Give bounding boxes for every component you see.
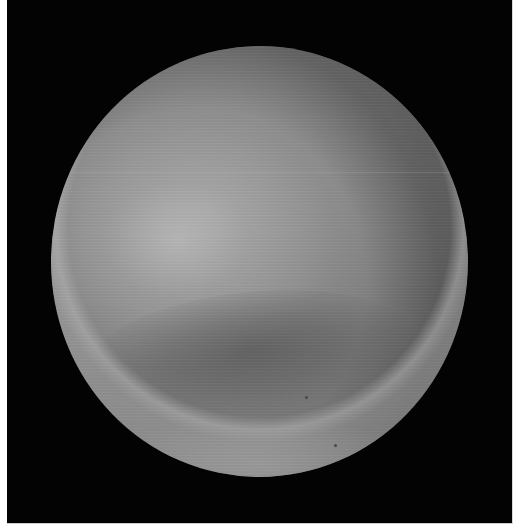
planet-disc — [51, 46, 468, 477]
dust-speck — [334, 444, 337, 447]
dust-speck — [305, 396, 308, 399]
frame-edge — [512, 0, 513, 523]
frame-edge — [7, 523, 513, 524]
film-grain — [51, 46, 468, 477]
photo-frame — [7, 0, 512, 523]
